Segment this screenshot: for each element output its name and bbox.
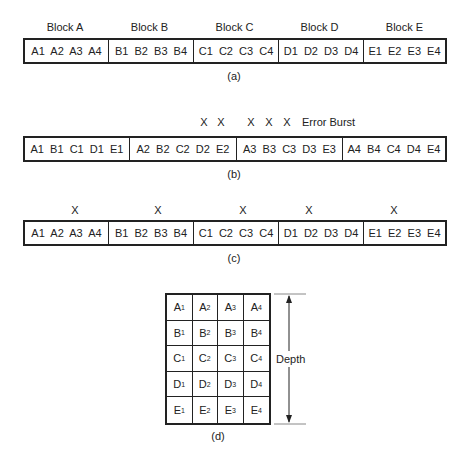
block-d-header: Block D [277,21,362,33]
interleaved-segment-4: A4 B4 C4 D4 E4 [343,138,445,160]
cell-subscript: 1 [181,329,185,336]
cell-subscript: 4 [258,329,262,336]
block-b-segment: B1 B2 B3 B4 [109,222,194,244]
cell-subscript: 3 [232,304,236,311]
block-c-header: Block C [192,21,277,33]
cell-letter: C [250,352,258,364]
caption-d: (d) [208,430,228,442]
matrix-cell: E4 [244,397,270,423]
block-e-segment: E1 E2 E3 E4 [364,222,445,244]
error-mark-d2: X [303,204,315,216]
interleaved-segment-3: A3 B3 C3 D3 E3 [237,138,343,160]
cell-letter: A [174,301,181,313]
cell-letter: C [173,352,181,364]
error-mark-c3: X [237,204,249,216]
cell-letter: D [173,378,181,390]
error-mark-a3: X [245,116,257,128]
matrix-cell: B3 [218,321,244,347]
cell-subscript: 2 [206,329,210,336]
caption-a: (a) [0,70,468,82]
matrix-cell: C1 [167,346,193,372]
block-c-segment: C1 C2 C3 C4 [194,222,279,244]
error-mark-b3: X [152,204,164,216]
matrix-cell: B1 [167,321,193,347]
block-b-segment: B1 B2 B3 B4 [109,40,194,62]
block-e-segment: E1 E2 E3 E4 [364,40,445,62]
matrix-cell: A1 [167,295,193,321]
sequential-blocks-strip: A1 A2 A3 A4 B1 B2 B3 B4 C1 C2 C3 C4 D1 D… [23,38,447,64]
cell-letter: B [225,327,232,339]
error-mark-e2: X [388,204,400,216]
matrix-cell: C3 [218,346,244,372]
matrix-cell: E2 [193,397,219,423]
matrix-cell: D1 [167,372,193,398]
cell-subscript: 3 [232,407,236,414]
cell-letter: D [250,378,258,390]
cell-letter: E [199,404,206,416]
matrix-cell: D3 [218,372,244,398]
cell-letter: A [251,301,258,313]
block-a-header: Block A [23,21,107,33]
error-mark-e2: X [215,116,227,128]
cell-subscript: 1 [181,355,185,362]
cell-letter: D [199,378,207,390]
interleaved-segment-1: A1 B1 C1 D1 E1 [25,138,130,160]
matrix-cell: C4 [244,346,270,372]
matrix-cell: B4 [244,321,270,347]
matrix-cell: E1 [167,397,193,423]
interleaved-strip: A1 B1 C1 D1 E1 A2 B2 C2 D2 E2 A3 B3 C3 D… [23,136,447,162]
error-burst-label: Error Burst [302,116,355,128]
cell-subscript: 2 [207,381,211,388]
cell-letter: B [199,327,206,339]
cell-subscript: 4 [258,355,262,362]
matrix-cell: C2 [193,346,219,372]
cell-subscript: 4 [258,304,262,311]
block-a-segment: A1 A2 A3 A4 [25,40,109,62]
cell-subscript: 3 [232,355,236,362]
deinterleaved-strip: A1 A2 A3 A4 B1 B2 B3 B4 C1 C2 C3 C4 D1 D… [23,220,447,246]
block-a-segment: A1 A2 A3 A4 [25,222,109,244]
cell-subscript: 1 [181,407,185,414]
error-mark-d2: X [198,116,210,128]
cell-subscript: 3 [232,381,236,388]
error-mark-c3: X [281,116,293,128]
matrix-cell: D4 [244,372,270,398]
block-d-segment: D1 D2 D3 D4 [279,222,364,244]
cell-subscript: 1 [181,304,185,311]
interleaved-segment-2: A2 B2 C2 D2 E2 [130,138,237,160]
matrix-cell: A4 [244,295,270,321]
cell-letter: B [174,327,181,339]
cell-letter: D [224,378,232,390]
cell-letter: E [174,404,181,416]
cell-subscript: 2 [207,355,211,362]
depth-label: Depth [275,353,306,365]
block-b-header: Block B [107,21,192,33]
cell-letter: E [225,404,232,416]
interleave-matrix: A1A2A3A4B1B2B3B4C1C2C3C4D1D2D3D4E1E2E3E4 [165,293,271,425]
caption-b: (b) [0,168,468,180]
matrix-cell: B2 [193,321,219,347]
cell-letter: E [251,404,258,416]
matrix-cell: A3 [218,295,244,321]
error-mark-a3: X [69,204,81,216]
matrix-cell: D2 [193,372,219,398]
cell-letter: C [224,352,232,364]
cell-subscript: 3 [232,329,236,336]
block-e-header: Block E [362,21,447,33]
cell-subscript: 1 [181,381,185,388]
cell-subscript: 2 [206,407,210,414]
cell-letter: B [251,327,258,339]
cell-subscript: 2 [206,304,210,311]
cell-letter: C [199,352,207,364]
caption-c: (c) [0,252,468,264]
matrix-cell: A2 [193,295,219,321]
block-c-segment: C1 C2 C3 C4 [194,40,279,62]
error-mark-b3: X [263,116,275,128]
cell-letter: A [225,301,232,313]
matrix-cell: E3 [218,397,244,423]
cell-letter: A [199,301,206,313]
cell-subscript: 4 [258,381,262,388]
block-d-segment: D1 D2 D3 D4 [279,40,364,62]
cell-subscript: 4 [258,407,262,414]
